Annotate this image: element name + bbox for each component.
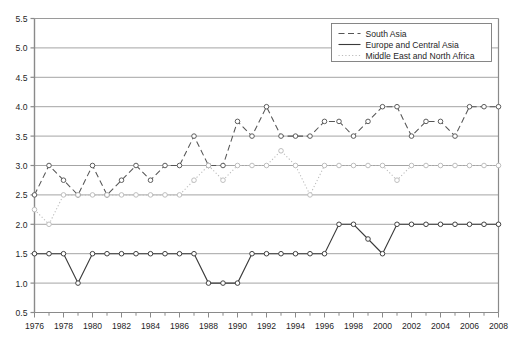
data-point-marker (148, 193, 153, 198)
x-tick-label: 1994 (286, 321, 305, 331)
x-tick-label: 1992 (257, 321, 276, 331)
data-point-marker (250, 251, 255, 256)
y-tick-label: 4.0 (16, 102, 28, 112)
data-point-marker (221, 163, 226, 168)
data-point-marker (395, 104, 400, 109)
data-point-marker (177, 193, 182, 198)
x-tick-label: 1984 (141, 321, 160, 331)
data-point-marker (293, 163, 298, 168)
x-axis: 1976197819801982198419861988199019921994… (25, 313, 508, 331)
legend-label-1: South Asia (366, 29, 407, 39)
data-point-marker (351, 222, 356, 227)
data-point-marker (409, 134, 414, 139)
data-point-marker (322, 251, 327, 256)
data-point-marker (134, 251, 139, 256)
line-chart-plot: 0.51.01.52.02.53.03.54.04.55.05.51976197… (0, 0, 516, 359)
data-point-marker (32, 251, 37, 256)
data-point-marker (467, 163, 472, 168)
data-point-marker (279, 149, 284, 154)
data-point-marker (308, 251, 313, 256)
data-point-marker (424, 222, 429, 227)
data-point-marker (148, 178, 153, 183)
data-point-marker (467, 222, 472, 227)
y-tick-label: 5.5 (16, 14, 28, 24)
x-tick-label: 1998 (344, 321, 363, 331)
x-tick-label: 2000 (373, 321, 392, 331)
data-point-marker (337, 119, 342, 124)
data-point-marker (482, 222, 487, 227)
data-point-marker (148, 251, 153, 256)
data-point-marker (221, 281, 226, 286)
data-point-marker (76, 281, 81, 286)
data-point-marker (351, 134, 356, 139)
data-point-marker (76, 193, 81, 198)
data-point-marker (177, 163, 182, 168)
data-point-marker (47, 163, 52, 168)
data-point-marker (424, 163, 429, 168)
y-tick-label: 5.0 (16, 43, 28, 53)
data-point-marker (496, 163, 501, 168)
data-point-marker (90, 163, 95, 168)
data-point-marker (221, 178, 226, 183)
data-point-marker (366, 119, 371, 124)
data-point-marker (177, 251, 182, 256)
data-point-marker (308, 193, 313, 198)
data-point-marker (293, 251, 298, 256)
series-line (35, 107, 499, 195)
data-point-marker (119, 251, 124, 256)
data-point-marker (32, 193, 37, 198)
data-point-marker (409, 163, 414, 168)
data-point-marker (90, 193, 95, 198)
x-tick-label: 2008 (489, 321, 508, 331)
data-point-marker (192, 178, 197, 183)
data-point-marker (395, 178, 400, 183)
data-point-marker (409, 222, 414, 227)
x-tick-label: 1980 (83, 321, 102, 331)
data-point-marker (264, 104, 269, 109)
data-series-1 (32, 104, 501, 197)
data-point-marker (293, 134, 298, 139)
data-point-marker (119, 178, 124, 183)
data-series-3 (32, 149, 501, 227)
y-tick-label: 4.5 (16, 73, 28, 83)
y-tick-label: 2.0 (16, 220, 28, 230)
data-point-marker (134, 163, 139, 168)
y-tick-label: 3.0 (16, 161, 28, 171)
x-tick-label: 1982 (112, 321, 131, 331)
x-tick-label: 2002 (402, 321, 421, 331)
data-point-marker (438, 119, 443, 124)
data-point-marker (482, 163, 487, 168)
x-tick-label: 1988 (199, 321, 218, 331)
chart-legend: South AsiaEurope and Central AsiaMiddle … (332, 24, 492, 62)
data-point-marker (424, 119, 429, 124)
data-point-marker (47, 251, 52, 256)
data-point-marker (453, 163, 458, 168)
data-point-marker (438, 163, 443, 168)
data-point-marker (264, 251, 269, 256)
data-point-marker (235, 281, 240, 286)
x-tick-label: 2004 (431, 321, 450, 331)
data-point-marker (61, 251, 66, 256)
data-point-marker (380, 163, 385, 168)
x-tick-label: 1976 (25, 321, 44, 331)
data-point-marker (467, 104, 472, 109)
data-point-marker (366, 237, 371, 242)
x-tick-label: 1978 (54, 321, 73, 331)
data-point-marker (308, 134, 313, 139)
y-tick-label: 1.0 (16, 279, 28, 289)
legend-label-3: Middle East and North Africa (366, 51, 475, 61)
data-point-marker (163, 163, 168, 168)
data-point-marker (322, 163, 327, 168)
data-point-marker (380, 251, 385, 256)
legend-label-2: Europe and Central Asia (366, 40, 459, 50)
data-point-marker (395, 222, 400, 227)
x-tick-label: 2006 (460, 321, 479, 331)
data-point-marker (206, 281, 211, 286)
data-point-marker (366, 163, 371, 168)
data-point-marker (322, 119, 327, 124)
data-point-marker (250, 134, 255, 139)
y-axis: 0.51.01.52.02.53.03.54.04.55.05.5 (16, 14, 35, 318)
data-point-marker (453, 222, 458, 227)
data-point-marker (279, 251, 284, 256)
data-point-marker (61, 193, 66, 198)
